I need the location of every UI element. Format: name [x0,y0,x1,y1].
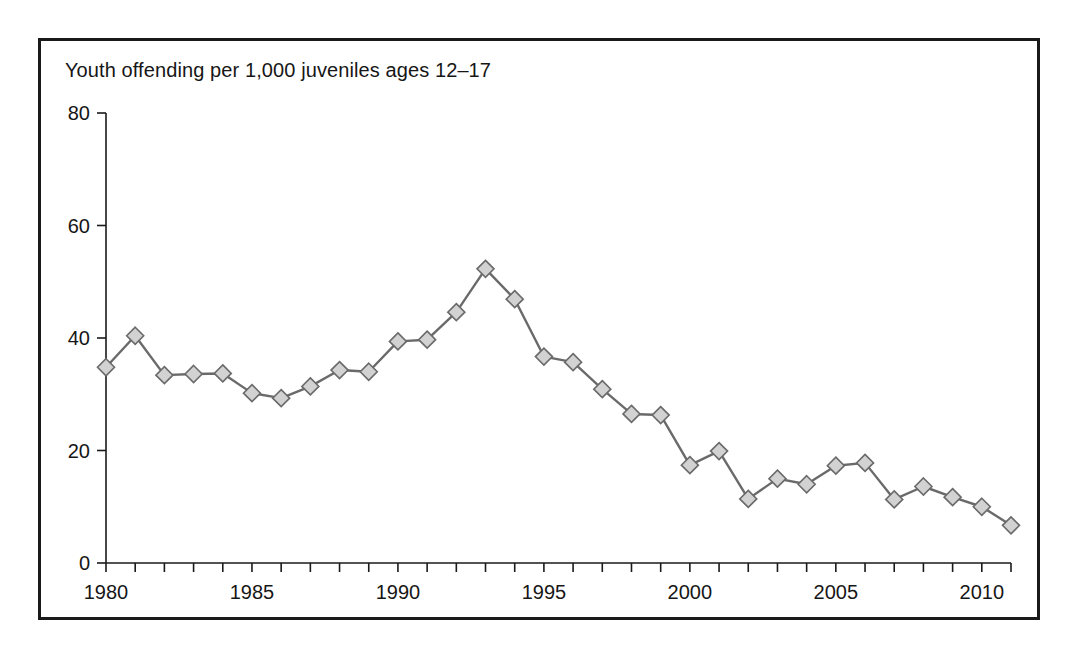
data-point-marker [827,457,844,474]
figure-frame: Youth offending per 1,000 juveniles ages… [38,38,1040,620]
x-axis-tick-label: 1990 [376,581,421,603]
data-point-marker [156,367,173,384]
y-axis-tick-label: 80 [68,102,90,124]
x-axis-tick-label: 1995 [522,581,567,603]
y-axis-tick-label: 0 [79,552,90,574]
chart-area: Youth offending per 1,000 juveniles ages… [41,41,1043,623]
data-point-marker [331,362,348,379]
data-point-marker [973,498,990,515]
data-point-marker [535,348,552,365]
data-series-line [106,269,1011,526]
data-point-marker [740,490,757,507]
data-point-marker [652,407,669,424]
data-point-marker [243,385,260,402]
data-point-marker [681,457,698,474]
figure-page: Youth offending per 1,000 juveniles ages… [0,0,1076,655]
x-axis-tick-label: 2000 [668,581,713,603]
data-point-marker [302,378,319,395]
data-point-marker [273,390,290,407]
y-axis-tick-label: 20 [68,440,90,462]
data-point-marker [769,470,786,487]
x-axis-tick-label: 1985 [230,581,275,603]
x-axis-tick-label: 2010 [960,581,1005,603]
y-axis-tick-label: 40 [68,327,90,349]
line-chart-plot: 0204060801980198519901995200020052010 [41,41,1043,623]
data-point-marker [915,478,932,495]
x-axis-tick-label: 1980 [84,581,129,603]
data-point-marker [798,476,815,493]
data-point-marker [944,489,961,506]
data-point-marker [214,365,231,382]
x-axis-tick-label: 2005 [814,581,859,603]
data-point-marker [185,366,202,383]
data-point-marker [711,443,728,460]
data-point-marker [1003,517,1020,534]
y-axis-tick-label: 60 [68,215,90,237]
